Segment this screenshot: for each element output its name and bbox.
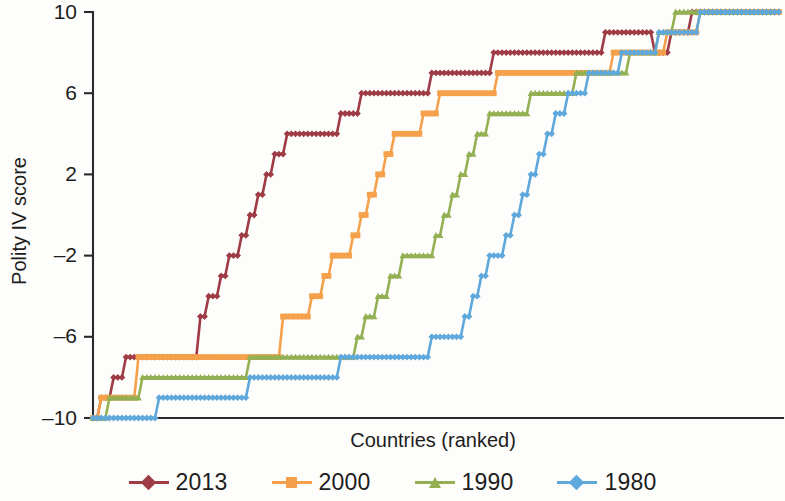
- axis-labels-group: Countries (ranked)Polity IV score: [8, 157, 516, 451]
- marker-square: [317, 293, 323, 299]
- marker-diamond: [499, 252, 506, 259]
- chart-plot-area: 1062–2–6–10 Countries (ranked)Polity IV …: [0, 0, 785, 501]
- legend-item-1990[interactable]: 1990: [415, 469, 514, 496]
- legend-marker-diamond-icon: [557, 473, 597, 491]
- marker-diamond: [424, 90, 431, 97]
- marker-square: [379, 172, 385, 178]
- marker-square: [346, 253, 352, 259]
- legend-label: 1980: [604, 469, 656, 496]
- marker-diamond: [333, 374, 340, 381]
- marker-square: [491, 90, 497, 96]
- legend-label: 1990: [462, 469, 514, 496]
- marker-diamond: [424, 354, 431, 361]
- legend-marker-diamond-icon: [129, 473, 169, 491]
- marker-square: [355, 232, 361, 238]
- series-group: [90, 9, 783, 422]
- marker-diamond: [280, 151, 287, 158]
- marker-diamond: [242, 232, 249, 239]
- marker-diamond: [507, 232, 514, 239]
- marker-diamond: [581, 90, 588, 97]
- marker-diamond: [482, 273, 489, 280]
- legend-marker-shape: [429, 477, 441, 488]
- marker-diamond: [466, 313, 473, 320]
- marker-diamond: [540, 151, 547, 158]
- marker-diamond: [457, 333, 464, 340]
- marker-diamond: [333, 130, 340, 137]
- marker-square: [363, 212, 369, 218]
- marker-diamond: [267, 171, 274, 178]
- marker-diamond: [354, 110, 361, 117]
- marker-diamond: [561, 110, 568, 117]
- legend-label: 2013: [176, 469, 228, 496]
- marker-diamond: [234, 252, 241, 259]
- legend-label: 2000: [319, 469, 371, 496]
- marker-diamond: [548, 130, 555, 137]
- marker-diamond: [598, 49, 605, 56]
- marker-square: [388, 151, 394, 157]
- marker-square: [433, 111, 439, 117]
- y-tick-label: 2: [65, 162, 77, 185]
- legend-marker-triangle-icon: [415, 473, 455, 491]
- x-axis-title: Countries (ranked): [350, 429, 516, 451]
- y-tick-label: –6: [54, 324, 77, 347]
- marker-square: [417, 131, 423, 137]
- marker-diamond: [523, 191, 530, 198]
- marker-diamond: [214, 293, 221, 300]
- marker-diamond: [486, 70, 493, 77]
- y-tick-label: 10: [54, 0, 77, 23]
- legend-marker-shape: [286, 477, 297, 488]
- marker-diamond: [119, 374, 126, 381]
- marker-diamond: [222, 273, 229, 280]
- y-axis-title: Polity IV score: [8, 157, 30, 285]
- axes-group: 1062–2–6–10: [42, 0, 783, 429]
- marker-square: [371, 192, 377, 198]
- marker-diamond: [474, 293, 481, 300]
- legend-marker-shape: [569, 475, 585, 491]
- legend-item-1980[interactable]: 1980: [557, 469, 656, 496]
- marker-diamond: [152, 415, 159, 422]
- y-tick-label: –10: [42, 406, 77, 429]
- legend-item-2013[interactable]: 2013: [129, 469, 228, 496]
- marker-diamond: [259, 191, 266, 198]
- y-tick-label: 6: [65, 81, 77, 104]
- chart-legend: 2013200019901980: [0, 463, 785, 501]
- marker-diamond: [515, 212, 522, 219]
- legend-marker-square-icon: [272, 473, 312, 491]
- marker-diamond: [251, 212, 258, 219]
- marker-square: [305, 314, 311, 320]
- legend-item-2000[interactable]: 2000: [272, 469, 371, 496]
- marker-diamond: [242, 394, 249, 401]
- marker-square: [326, 273, 332, 279]
- y-tick-label: –2: [54, 243, 77, 266]
- marker-diamond: [532, 171, 539, 178]
- chart-figure: 1062–2–6–10 Countries (ranked)Polity IV …: [0, 0, 785, 501]
- legend-marker-shape: [140, 475, 156, 491]
- marker-diamond: [647, 29, 654, 36]
- marker-diamond: [201, 313, 208, 320]
- marker-square: [660, 50, 666, 56]
